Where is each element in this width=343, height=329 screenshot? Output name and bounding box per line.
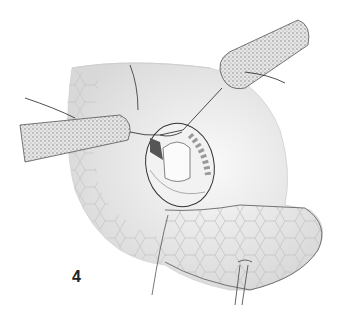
right-retractor	[220, 20, 309, 89]
surgical-illustration: 4	[0, 0, 343, 329]
illustration-svg	[0, 0, 343, 329]
figure-label: 4	[72, 268, 81, 286]
